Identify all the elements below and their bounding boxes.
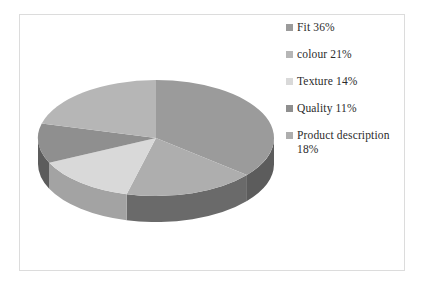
legend-item[interactable]: Quality 11% (286, 101, 408, 115)
legend-item[interactable]: Fit 36% (286, 20, 408, 34)
legend-swatch-icon (286, 24, 293, 31)
pie-chart: Fit 36% colour 21% Texture 14% Quality 1… (0, 0, 422, 291)
legend-item-label: colour 21% (297, 47, 352, 61)
legend-item[interactable]: Product description 18% (286, 128, 408, 156)
pie-graphic (28, 62, 284, 222)
legend-swatch-icon (286, 51, 293, 58)
legend-item-label: Fit 36% (297, 20, 335, 34)
legend: Fit 36% colour 21% Texture 14% Quality 1… (286, 20, 408, 156)
legend-swatch-icon (286, 132, 293, 139)
legend-item-label: Texture 14% (297, 74, 358, 88)
pie-slices (38, 80, 274, 196)
legend-item[interactable]: colour 21% (286, 47, 408, 61)
pie-svg (28, 62, 284, 222)
legend-item-label: Quality 11% (297, 101, 357, 115)
legend-item-label: Product description 18% (297, 128, 390, 156)
legend-swatch-icon (286, 105, 293, 112)
legend-swatch-icon (286, 78, 293, 85)
legend-item[interactable]: Texture 14% (286, 74, 408, 88)
